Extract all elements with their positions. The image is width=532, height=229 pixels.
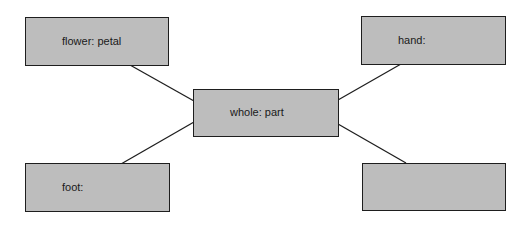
node-label: foot:: [62, 181, 83, 193]
connector-bottom-left: [121, 122, 194, 164]
connector-bottom-right: [338, 124, 406, 163]
node-bottom-right: [362, 163, 506, 211]
connector-top-right: [338, 64, 401, 100]
connector-top-left: [130, 65, 194, 101]
node-top-left: flower: petal: [25, 17, 169, 66]
node-center: whole: part: [193, 89, 339, 137]
node-label: flower: petal: [62, 35, 121, 47]
node-label: hand:: [398, 34, 426, 46]
node-top-right: hand:: [361, 16, 506, 65]
node-label: whole: part: [230, 106, 284, 118]
node-bottom-left: foot:: [25, 163, 170, 212]
